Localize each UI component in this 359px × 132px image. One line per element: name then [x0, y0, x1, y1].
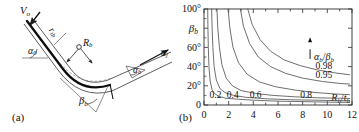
panel-a-tag: (a) [12, 112, 24, 123]
bend-center-marker [77, 45, 82, 50]
alpha-j-label: αj [161, 49, 168, 59]
x-tick-label: 0 [202, 109, 207, 120]
bend-radius-leader-left [67, 49, 78, 62]
curve-label-0_95: 0.95 [316, 70, 333, 80]
alpha-zero-label: α0 [28, 46, 37, 57]
y-tick-label: 100° [182, 3, 201, 14]
beta-b-vs-rb-tb-chart: 024681012020°40°60°100°βbRb/tb0.20.40.60… [178, 0, 359, 132]
bent-sheet-centerline [27, 21, 110, 87]
velocity-label: Vo [20, 6, 30, 18]
figure-container: Vo rtb Rb α0 αb αj βb (a) 024681012020°4… [0, 0, 359, 132]
beta-b-arc [88, 99, 97, 104]
curve-label-0_6: 0.6 [250, 90, 262, 100]
curve-0_8 [228, 9, 349, 95]
x-tick-label: 12 [347, 109, 357, 120]
y-tick-label: 20° [187, 80, 201, 91]
x-tick-label: 2 [226, 109, 231, 120]
x-tick-label: 8 [300, 109, 305, 120]
x-tick-label: 10 [322, 109, 332, 120]
y-axis-title: βb [188, 22, 198, 36]
x-tick-label: 6 [276, 109, 281, 120]
y-tick-label: 60° [187, 42, 201, 53]
inner-surface-line [24, 24, 172, 93]
bend-radius-label: Rb [83, 38, 93, 49]
panel-b-tag: (b) [179, 112, 192, 123]
beta-b-label: βb [79, 96, 88, 108]
bend-radius-leader-right [81, 49, 92, 63]
beta-b-ray-2 [96, 86, 108, 112]
legend-arrow-head-icon [308, 37, 312, 42]
alpha-b-label: αb [133, 66, 141, 76]
panel-a-schematic: Vo rtb Rb α0 αb αj βb (a) [0, 0, 180, 132]
curve-0_98 [248, 9, 350, 75]
velocity-arrow [30, 12, 40, 25]
x-tick-label: 4 [251, 109, 256, 120]
y-tick-label: 40° [187, 61, 201, 72]
curve-label-0_4: 0.4 [227, 90, 239, 100]
panel-b-chart: 024681012020°40°60°100°βbRb/tb0.20.40.60… [178, 0, 359, 132]
curve-label-0_8: 0.8 [300, 90, 312, 100]
y-tick-label: 0 [196, 99, 201, 110]
curve-label-0_2: 0.2 [210, 90, 222, 100]
schematic-drawing [0, 0, 180, 132]
